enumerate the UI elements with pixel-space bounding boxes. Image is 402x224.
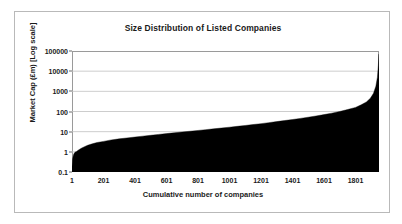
y-tick-mark	[69, 151, 72, 152]
y-tick-mark	[69, 131, 72, 132]
x-tick-label: 1	[70, 177, 74, 184]
series-area-path	[72, 54, 379, 172]
y-tick-label: 1	[64, 148, 68, 155]
y-tick-mark	[69, 51, 72, 52]
y-tick-mark	[69, 71, 72, 72]
y-tick-label: 100	[56, 108, 68, 115]
x-tick-label: 1801	[348, 177, 364, 184]
y-tick-label: 100000	[45, 48, 68, 55]
x-tick-label: 1001	[222, 177, 238, 184]
y-axis-label: Market Cap (£m) [Log scale]	[28, 13, 37, 133]
y-tick-label: 0.1	[58, 169, 68, 176]
x-tick-label: 1201	[253, 177, 269, 184]
chart-figure: Size Distribution of Listed Companies Ma…	[14, 11, 390, 213]
x-tick-label: 601	[161, 177, 173, 184]
x-tick-label: 1601	[316, 177, 332, 184]
y-tick-mark	[69, 91, 72, 92]
y-tick-mark	[69, 172, 72, 173]
chart-title: Size Distribution of Listed Companies	[15, 23, 391, 33]
x-tick-label: 801	[192, 177, 204, 184]
y-tick-label: 10000	[49, 68, 68, 75]
area-series	[72, 51, 379, 172]
y-tick-label: 1000	[52, 88, 68, 95]
plot-wrapper: 1000001000010001001010.1 120140160180110…	[72, 51, 379, 172]
x-axis-label: Cumulative number of companies	[15, 190, 391, 199]
y-tick-label: 10	[60, 128, 68, 135]
x-tick-label: 1401	[285, 177, 301, 184]
x-tick-label: 401	[129, 177, 141, 184]
y-tick-mark	[69, 111, 72, 112]
x-tick-label: 201	[98, 177, 110, 184]
